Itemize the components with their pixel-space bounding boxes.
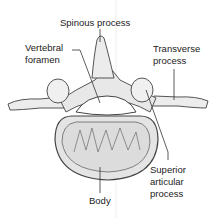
label-superior-articular-line2: articular [150, 176, 184, 187]
label-body: Body [89, 195, 111, 206]
label-transverse-process-line1: Transverse [153, 43, 200, 54]
label-superior-articular-line1: Superior [150, 164, 186, 175]
label-superior-articular-line3: process [150, 188, 183, 199]
label-spinous-process: Spinous process [60, 17, 130, 28]
label-vertebral-foramen-line1: Vertebral [25, 42, 63, 53]
label-vertebral-foramen-line2: foramen [25, 54, 60, 65]
vertebra-illustration [0, 0, 217, 218]
label-transverse-process-line2: process [153, 55, 186, 66]
